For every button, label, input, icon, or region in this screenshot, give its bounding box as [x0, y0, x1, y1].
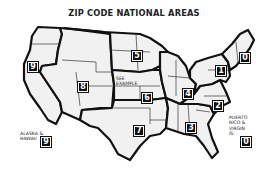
area-badge-7: 7	[133, 125, 145, 137]
area-badge-9: 9	[27, 61, 39, 73]
area-badge-3: 3	[185, 122, 197, 134]
puerto-rico-badge: 0	[240, 136, 252, 148]
area-badge-2: 2	[212, 100, 224, 112]
area-badge-6: 6	[141, 92, 153, 104]
alaska-hawaii-badge: 9	[40, 136, 52, 148]
puerto-rico-note: PUERTO RICO & VIRGIN IS.	[229, 115, 247, 137]
area-badge-5: 5	[131, 50, 143, 62]
see-example-note: SEE EXAMPLE	[116, 76, 142, 87]
area-badge-8: 8	[77, 81, 89, 93]
area-badge-0: 0	[239, 52, 251, 64]
area-badge-1: 1	[215, 65, 227, 77]
area-badge-4: 4	[182, 88, 194, 100]
us-map	[0, 0, 268, 184]
